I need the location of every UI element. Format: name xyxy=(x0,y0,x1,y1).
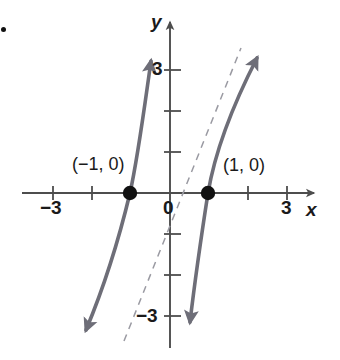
x-intercept-right-point xyxy=(201,186,215,200)
x-axis-label: x xyxy=(306,200,317,219)
right-point-annotation: (1, 0) xyxy=(223,156,265,174)
left-point-annotation: (−1, 0) xyxy=(72,155,125,173)
asymptote-dashed-line xyxy=(124,48,241,341)
curve-right-branch xyxy=(190,58,257,322)
cartesian-plot xyxy=(0,0,340,360)
curve-left-branch xyxy=(86,61,151,330)
origin-label: 0 xyxy=(163,198,174,217)
y-tick-label-pos3: 3 xyxy=(152,59,163,78)
y-axis-label: y xyxy=(151,12,162,31)
y-tick-label-neg3: −3 xyxy=(136,306,158,325)
x-tick-label-pos3: 3 xyxy=(281,198,292,217)
graph-figure: y x 0 −3 3 3 −3 (−1, 0) (1, 0) xyxy=(0,0,340,360)
x-tick-label-neg3: −3 xyxy=(40,198,62,217)
x-intercept-left-point xyxy=(123,186,137,200)
